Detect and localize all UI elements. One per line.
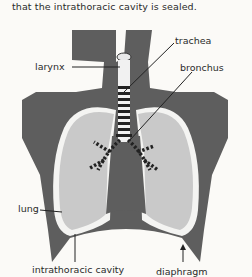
label-trachea: trachea (175, 35, 211, 46)
thorax-diagram (0, 0, 252, 277)
label-intrathoracic-cavity: intrathoracic cavity (32, 264, 124, 275)
label-lung: lung (18, 203, 39, 214)
trachea-rings (116, 86, 132, 137)
diaphragm-arrow-icon (180, 244, 186, 250)
larynx-shape (117, 53, 131, 61)
label-bronchus: bronchus (180, 62, 224, 73)
label-diaphragm: diaphragm (156, 266, 208, 277)
label-larynx: larynx (35, 61, 65, 72)
